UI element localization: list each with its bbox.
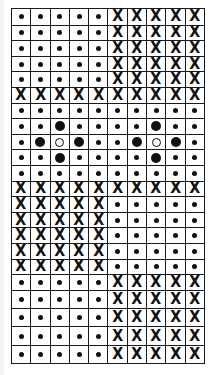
chart-cell: X [146, 346, 165, 363]
small-dot-icon [57, 334, 62, 339]
chart-cell [12, 275, 30, 290]
x-mark-icon: X [131, 88, 142, 103]
chart-cell: X [30, 197, 49, 212]
small-dot-icon [173, 233, 178, 238]
x-mark-icon: X [151, 347, 162, 362]
x-mark-icon: X [189, 310, 200, 325]
small-dot-icon [57, 46, 62, 51]
chart-cell: X [146, 309, 165, 326]
x-mark-icon: X [170, 292, 181, 307]
small-dot-icon [154, 218, 159, 223]
small-dot-icon [96, 77, 101, 82]
chart-cell [107, 197, 126, 212]
chart-row-21: XXXXX [12, 326, 204, 344]
chart-cell [88, 291, 107, 308]
chart-cell [127, 104, 146, 119]
chart-cell [69, 275, 88, 290]
chart-cell: X [146, 275, 165, 290]
chart-cell [69, 104, 88, 119]
chart-cell [146, 135, 165, 150]
chart-cell [69, 119, 88, 134]
chart-cell [30, 26, 49, 41]
small-dot-icon [38, 352, 43, 357]
chart-cell: X [107, 41, 126, 56]
chart-cell: X [88, 228, 107, 243]
x-mark-icon: X [151, 275, 162, 290]
chart-cell [30, 275, 49, 290]
chart-cell [12, 9, 30, 25]
x-mark-icon: X [170, 88, 181, 103]
chart-cell: X [107, 182, 126, 197]
small-dot-icon [19, 334, 24, 339]
chart-cell: X [107, 291, 126, 308]
small-dot-icon [38, 46, 43, 51]
small-dot-icon [57, 171, 62, 176]
chart-cell [165, 213, 184, 228]
chart-row-7 [12, 103, 204, 119]
chart-row-14: XXXXX [12, 212, 204, 228]
chart-cell [107, 166, 126, 181]
small-dot-icon [173, 124, 178, 129]
chart-row-22: XXXXX [12, 345, 204, 363]
chart-cell [185, 135, 204, 150]
chart-cell [165, 260, 184, 275]
chart-cell [69, 150, 88, 165]
x-mark-icon: X [35, 259, 46, 274]
chart-cell [50, 104, 69, 119]
chart-cell: X [12, 213, 30, 228]
x-mark-icon: X [170, 9, 181, 24]
small-dot-icon [173, 171, 178, 176]
small-dot-icon [19, 14, 24, 19]
small-dot-icon [19, 140, 24, 145]
x-mark-icon: X [54, 88, 65, 103]
small-dot-icon [77, 171, 82, 176]
chart-cell [12, 166, 30, 181]
chart-cell: X [165, 327, 184, 344]
small-dot-icon [57, 297, 62, 302]
chart-cell: X [127, 291, 146, 308]
chart-cell [12, 327, 30, 344]
chart-cell: X [146, 26, 165, 41]
chart-cell [146, 119, 165, 134]
small-dot-icon [57, 77, 62, 82]
chart-cell [127, 197, 146, 212]
chart-cell: X [185, 26, 204, 41]
chart-cell: X [50, 213, 69, 228]
chart-cell [165, 119, 184, 134]
chart-cell: X [50, 228, 69, 243]
chart-cell [50, 119, 69, 134]
chart-cell: X [107, 57, 126, 72]
chart-cell [30, 72, 49, 87]
chart-cell: X [12, 260, 30, 275]
chart-cell: X [107, 72, 126, 87]
small-dot-icon [96, 62, 101, 67]
chart-cell: X [165, 26, 184, 41]
chart-cell [107, 228, 126, 243]
small-dot-icon [96, 315, 101, 320]
x-mark-icon: X [112, 292, 123, 307]
chart-cell: X [185, 309, 204, 326]
chart-row-15: XXXXX [12, 227, 204, 243]
chart-cell [50, 346, 69, 363]
chart-cell: X [127, 41, 146, 56]
chart-cell: X [127, 327, 146, 344]
chart-cell: X [165, 182, 184, 197]
chart-cell [50, 72, 69, 87]
chart-cell: X [185, 72, 204, 87]
chart-cell [69, 72, 88, 87]
chart-row-8 [12, 118, 204, 134]
chart-row-13: XXXXX [12, 196, 204, 212]
chart-cell: X [127, 88, 146, 103]
chart-cell: X [30, 228, 49, 243]
small-dot-icon [192, 171, 197, 176]
chart-cell [12, 150, 30, 165]
small-dot-icon [57, 280, 62, 285]
small-dot-icon [115, 140, 120, 145]
chart-cell: X [107, 346, 126, 363]
chart-cell: X [127, 275, 146, 290]
x-mark-icon: X [74, 259, 85, 274]
chart-cell: X [107, 327, 126, 344]
chart-cell [88, 309, 107, 326]
small-dot-icon [96, 352, 101, 357]
chart-cell [12, 346, 30, 363]
